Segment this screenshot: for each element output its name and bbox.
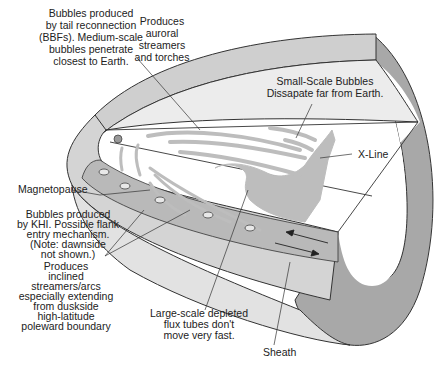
svg-text:by tail reconnection: by tail reconnection xyxy=(46,19,137,31)
label-bbf-bubbles: Bubbles produced by tail reconnection (B… xyxy=(39,7,143,67)
svg-text:(BBFs). Medium-scale: (BBFs). Medium-scale xyxy=(39,31,143,43)
label-large-scale: Large-scale depleted flux tubes don't mo… xyxy=(150,307,248,341)
earth-marker xyxy=(114,135,122,143)
svg-text:and torches: and torches xyxy=(135,51,190,63)
svg-text:poleward boundary: poleward boundary xyxy=(21,320,111,332)
svg-text:auroral: auroral xyxy=(146,27,179,39)
label-magnetopause: Magnetopause xyxy=(18,183,88,195)
svg-text:closest to Earth.: closest to Earth. xyxy=(53,55,128,67)
svg-text:Dissapate far from Earth.: Dissapate far from Earth. xyxy=(267,87,384,99)
label-khi-bubbles: Bubbles produced by KHI. Possible flank … xyxy=(17,208,120,260)
svg-text:Small-Scale Bubbles: Small-Scale Bubbles xyxy=(277,75,374,87)
svg-text:Bubbles produced: Bubbles produced xyxy=(49,7,134,19)
label-auroral: Produces auroral streamers and torches xyxy=(135,15,190,63)
svg-text:Produces: Produces xyxy=(140,15,184,27)
magnetotail-diagram: Bubbles produced by tail reconnection (B… xyxy=(0,0,448,372)
svg-text:move very fast.: move very fast. xyxy=(163,329,234,341)
label-small-scale: Small-Scale Bubbles Dissapate far from E… xyxy=(267,75,384,99)
svg-text:not shown.): not shown.) xyxy=(41,248,95,260)
svg-text:bubbles penetrate: bubbles penetrate xyxy=(49,43,133,55)
label-inclined: Produces inclined streamers/arcs especia… xyxy=(19,260,114,332)
svg-text:streamers: streamers xyxy=(139,39,186,51)
label-x-line: X-Line xyxy=(358,148,389,160)
label-sheath: Sheath xyxy=(263,346,296,358)
